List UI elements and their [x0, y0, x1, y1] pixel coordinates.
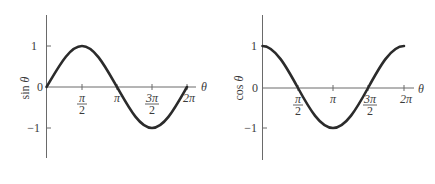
x-label-pi: π	[114, 91, 121, 105]
y-label-0: 0	[252, 81, 258, 95]
x-label-three-pi-half-den: 2	[149, 103, 155, 117]
x-label-two-pi: 2π	[400, 92, 413, 106]
x-label-pi-half-den: 2	[79, 103, 85, 117]
x-axis-title: θ	[418, 82, 424, 96]
y-label-1: 1	[251, 39, 257, 53]
x-label-three-pi-half-den: 2	[367, 104, 373, 118]
y-axis-title: sin θ	[18, 76, 32, 99]
y-label-0: 0	[37, 80, 43, 94]
cosine-chart: 1 0 −1 cos θ θ π 2 π 3π 2 2π	[232, 15, 424, 160]
y-label-minus-1: −1	[27, 121, 40, 135]
trig-figure: 1 0 −1 sin θ θ π 2 π 3π 2 2π 1 0 −1	[0, 0, 435, 184]
sine-chart: 1 0 −1 sin θ θ π 2 π 3π 2 2π	[18, 15, 207, 158]
y-axis-title: cos θ	[232, 75, 246, 100]
x-axis-title: θ	[201, 80, 207, 94]
x-label-pi-half-den: 2	[295, 104, 301, 118]
y-label-1: 1	[31, 39, 37, 53]
x-label-pi: π	[330, 92, 337, 106]
x-label-two-pi: 2π	[183, 91, 196, 105]
y-label-minus-1: −1	[244, 121, 257, 135]
